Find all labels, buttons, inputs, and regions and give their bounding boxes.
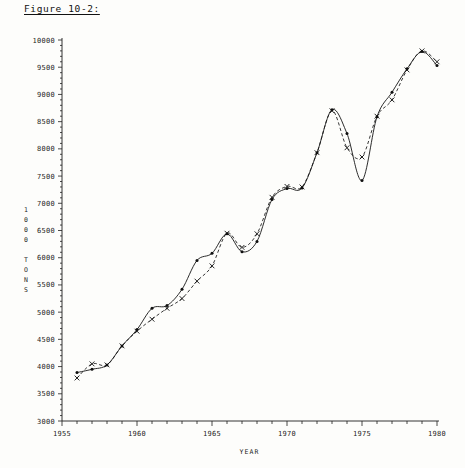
- data-point-marker: [361, 179, 364, 182]
- series-line-solid-observed: [77, 51, 437, 372]
- data-point-marker: [150, 317, 155, 322]
- x-axis-tick-label: 1960: [128, 430, 146, 438]
- y-axis: 1000095009000850080007500700065006000550…: [32, 37, 62, 426]
- x-axis-title-label: YEAR: [239, 448, 259, 456]
- y-axis-tick-label: 4500: [37, 336, 55, 344]
- y-axis-tick-label: 4000: [37, 363, 55, 371]
- y-axis-tick-label: 6500: [37, 227, 55, 235]
- x-axis-title: YEAR: [239, 448, 259, 456]
- data-point-marker: [91, 368, 94, 371]
- x-axis-tick-label: 1965: [203, 430, 221, 438]
- data-point-marker: [120, 343, 125, 348]
- data-point-marker: [211, 252, 214, 255]
- y-axis-tick-label: 8000: [37, 145, 55, 153]
- y-axis-title-char: N: [24, 276, 28, 284]
- y-axis-tick-label: 9000: [37, 91, 55, 99]
- y-axis-tick-label: 7500: [37, 173, 55, 181]
- data-point-marker: [210, 263, 215, 268]
- line-chart: 1000095009000850080007500700065006000550…: [0, 0, 465, 468]
- data-point-marker: [436, 64, 439, 67]
- y-axis-title-char: S: [24, 286, 28, 294]
- data-point-marker: [390, 97, 395, 102]
- x-axis-tick-label: 1975: [353, 430, 371, 438]
- data-point-marker: [151, 307, 154, 310]
- y-axis-title-char: 0: [24, 226, 28, 234]
- data-point-marker: [315, 150, 320, 155]
- series-line-dashed-fitted: [77, 51, 437, 378]
- data-point-marker: [255, 231, 260, 236]
- data-point-marker: [241, 250, 244, 253]
- y-axis-tick-label: 8500: [37, 118, 55, 126]
- data-point-marker: [196, 259, 199, 262]
- y-axis-tick-label: 5500: [37, 281, 55, 289]
- data-point-marker: [105, 363, 110, 368]
- data-point-marker: [256, 240, 259, 243]
- y-axis-tick-label: 5000: [37, 309, 55, 317]
- data-point-marker: [75, 376, 80, 381]
- y-axis-title-char: 0: [24, 216, 28, 224]
- data-point-marker: [195, 279, 200, 284]
- data-point-marker: [346, 132, 349, 135]
- y-axis-tick-label: 3500: [37, 390, 55, 398]
- y-axis-title-char: 1: [24, 206, 28, 214]
- y-axis-title: 1000TONS: [24, 206, 28, 294]
- data-point-marker: [76, 371, 79, 374]
- data-point-marker: [345, 145, 350, 150]
- y-axis-title-char: O: [24, 266, 28, 274]
- y-axis-tick-label: 7000: [37, 200, 55, 208]
- x-axis-tick-label: 1980: [428, 430, 446, 438]
- data-point-marker: [181, 288, 184, 291]
- figure-page: Figure 10-2: 100009500900085008000750070…: [0, 0, 465, 468]
- data-point-marker: [360, 155, 365, 160]
- y-axis-tick-label: 10000: [32, 37, 55, 45]
- data-point-marker: [180, 296, 185, 301]
- y-axis-title-char: T: [24, 256, 28, 264]
- y-axis-tick-label: 9500: [37, 64, 55, 72]
- y-axis-tick-label: 6000: [37, 254, 55, 262]
- data-point-marker: [391, 91, 394, 94]
- y-axis-title-char: 0: [24, 236, 28, 244]
- x-axis-tick-label: 1955: [53, 430, 71, 438]
- x-axis: 195519601965197019751980: [53, 421, 446, 438]
- data-point-marker: [435, 59, 440, 64]
- x-axis-tick-label: 1970: [278, 430, 296, 438]
- chart-series: [75, 48, 440, 380]
- y-axis-tick-label: 3000: [37, 418, 55, 426]
- data-point-marker: [90, 361, 95, 366]
